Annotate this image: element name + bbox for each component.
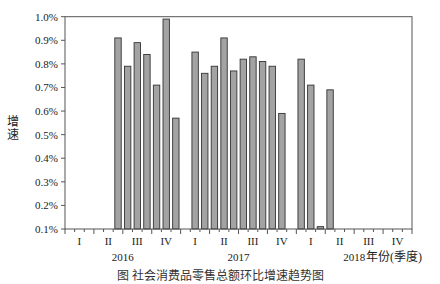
y-tick-label: 0.3% bbox=[35, 176, 58, 188]
quarter-label: IV bbox=[160, 235, 172, 247]
year-labels: 201620172018 bbox=[112, 251, 366, 263]
quarter-label: III bbox=[132, 235, 143, 247]
bar bbox=[269, 66, 275, 229]
year-label: 2018 bbox=[343, 251, 366, 263]
quarter-label: II bbox=[220, 235, 228, 247]
bar bbox=[153, 85, 159, 229]
y-tick-label: 0.5% bbox=[35, 129, 58, 141]
x-axis-ticks bbox=[65, 229, 412, 234]
bar bbox=[134, 43, 140, 229]
quarter-label: II bbox=[336, 235, 344, 247]
chart-caption: 图 社会消费品零售总额环比增速趋势图 bbox=[0, 266, 440, 284]
year-label: 2017 bbox=[228, 251, 251, 263]
quarter-labels: IIIIIIIVIIIIIIIVIIIIIIIV bbox=[78, 235, 404, 247]
bar bbox=[202, 73, 208, 229]
y-tick-label: 0.7% bbox=[35, 81, 58, 93]
bar bbox=[230, 71, 236, 229]
bar bbox=[279, 113, 285, 229]
bar bbox=[250, 57, 256, 229]
quarter-label: I bbox=[309, 235, 313, 247]
y-axis-label: 增速 bbox=[6, 116, 20, 142]
bar bbox=[124, 66, 130, 229]
bar bbox=[173, 118, 179, 229]
y-tick-label: 1.0% bbox=[35, 11, 58, 23]
bar bbox=[327, 90, 333, 229]
bar bbox=[144, 54, 150, 229]
y-tick-label: 0.4% bbox=[35, 152, 58, 164]
y-tick-label: 0.9% bbox=[35, 34, 58, 46]
bar bbox=[211, 66, 217, 229]
y-tick-label: 0.6% bbox=[35, 105, 58, 117]
bars bbox=[115, 19, 333, 229]
quarter-label: IV bbox=[392, 235, 404, 247]
bar bbox=[221, 38, 227, 229]
bar bbox=[115, 38, 121, 229]
bar bbox=[298, 59, 304, 229]
year-label: 2016 bbox=[112, 251, 135, 263]
y-tick-label: 0.1% bbox=[35, 223, 58, 235]
y-axis-ticks: 1.0%0.9%0.8%0.7%0.6%0.5%0.4%0.3%0.2%0.1% bbox=[35, 11, 65, 235]
quarter-label: III bbox=[363, 235, 374, 247]
bar bbox=[308, 85, 314, 229]
quarter-label: I bbox=[193, 235, 197, 247]
x-axis-label: 年份(季度) bbox=[366, 249, 422, 264]
quarter-label: II bbox=[105, 235, 113, 247]
bar bbox=[259, 62, 265, 229]
quarter-label: I bbox=[78, 235, 82, 247]
quarter-label: III bbox=[247, 235, 258, 247]
bar bbox=[163, 19, 169, 229]
bar bbox=[192, 52, 198, 229]
y-tick-label: 0.2% bbox=[35, 199, 58, 211]
bar bbox=[240, 59, 246, 229]
quarter-label: IV bbox=[276, 235, 288, 247]
y-tick-label: 0.8% bbox=[35, 58, 58, 70]
